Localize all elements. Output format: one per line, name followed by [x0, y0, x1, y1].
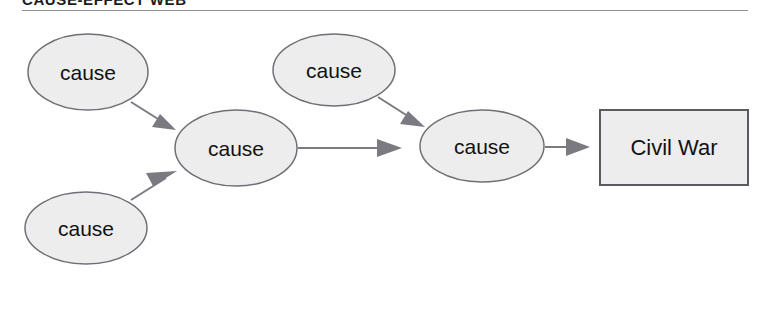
node-cause-3[interactable]: cause [273, 34, 395, 106]
node-cause-1-label: cause [60, 61, 116, 84]
page-root: CAUSE-EFFECT WEB [0, 0, 765, 323]
node-effect-civil-war-label: Civil War [630, 135, 717, 160]
node-cause-5-label: cause [58, 217, 114, 240]
cause-effect-web-diagram: cause cause cause cause cause Civil War [0, 0, 765, 323]
node-cause-4-label: cause [454, 135, 510, 158]
node-cause-4[interactable]: cause [420, 110, 544, 182]
edge-cause4-to-civil-war [545, 138, 590, 156]
node-cause-2[interactable]: cause [175, 110, 297, 186]
node-cause-1[interactable]: cause [28, 34, 148, 110]
node-effect-civil-war[interactable]: Civil War [600, 110, 748, 185]
node-cause-2-label: cause [208, 137, 264, 160]
edge-cause1-to-cause2 [131, 102, 176, 130]
node-cause-3-label: cause [306, 59, 362, 82]
edge-cause5-to-cause2 [131, 171, 177, 200]
edge-cause2-to-cause4 [298, 139, 402, 157]
node-cause-5[interactable]: cause [25, 192, 147, 264]
edge-cause3-to-cause4 [378, 97, 425, 127]
